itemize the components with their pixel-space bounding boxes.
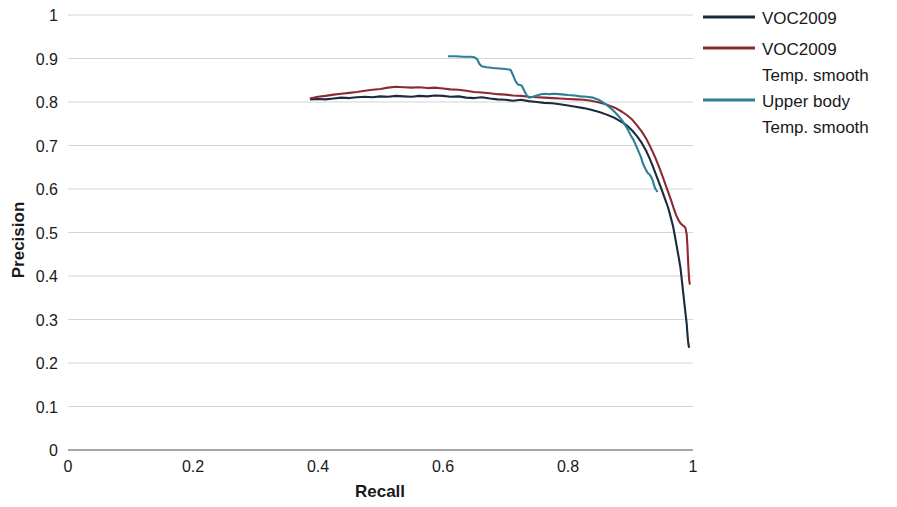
- legend-sublabel-2: Temp. smooth: [762, 66, 869, 85]
- y-tick-label: 0.2: [36, 355, 58, 372]
- x-axis-ticks: 00.20.40.60.81: [64, 458, 698, 475]
- y-tick-label: 0.6: [36, 181, 58, 198]
- x-tick-label: 0.4: [307, 458, 329, 475]
- legend-sublabel-3: Temp. smooth: [762, 118, 869, 137]
- y-axis-title: Precision: [9, 202, 28, 279]
- y-tick-label: 0.9: [36, 51, 58, 68]
- data-series: [310, 56, 690, 347]
- y-tick-label: 0.3: [36, 312, 58, 329]
- bottom-border-strip: [0, 500, 897, 507]
- x-axis-title: Recall: [355, 482, 405, 501]
- y-axis-ticks: 00.10.20.30.40.50.60.70.80.91: [36, 7, 58, 459]
- chart-canvas: 00.10.20.30.40.50.60.70.80.91 00.20.40.6…: [0, 0, 897, 507]
- gridlines: [68, 15, 693, 450]
- chart-legend: VOC2009VOC2009Temp. smoothUpper bodyTemp…: [703, 9, 869, 137]
- y-tick-label: 0.5: [36, 225, 58, 242]
- x-tick-label: 0.2: [182, 458, 204, 475]
- y-tick-label: 0.8: [36, 94, 58, 111]
- precision-recall-chart: 00.10.20.30.40.50.60.70.80.91 00.20.40.6…: [0, 0, 897, 507]
- x-tick-label: 0: [64, 458, 73, 475]
- y-tick-label: 0: [49, 442, 58, 459]
- legend-label-3: Upper body: [762, 92, 850, 111]
- series-line-2: [310, 87, 690, 285]
- y-tick-label: 1: [49, 7, 58, 24]
- x-tick-label: 1: [689, 458, 698, 475]
- y-tick-label: 0.7: [36, 138, 58, 155]
- y-tick-label: 0.4: [36, 268, 58, 285]
- x-tick-label: 0.6: [432, 458, 454, 475]
- y-tick-label: 0.1: [36, 399, 58, 416]
- legend-label-2: VOC2009: [762, 40, 837, 59]
- legend-label-1: VOC2009: [762, 9, 837, 28]
- x-tick-label: 0.8: [557, 458, 579, 475]
- series-line-1: [310, 95, 689, 347]
